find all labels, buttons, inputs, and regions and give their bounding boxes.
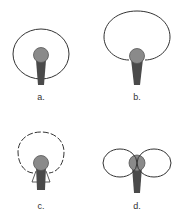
panel-label-c: c. xyxy=(37,201,44,211)
mic-head-icon xyxy=(34,48,49,63)
panel-b-cardioid: b. xyxy=(104,11,170,102)
panel-a-omnidirectional: a. xyxy=(13,29,69,102)
mic-head-icon xyxy=(130,49,145,64)
polar-patterns-diagram: a. b. c. d. xyxy=(0,0,183,216)
mic-handle-icon xyxy=(36,60,46,85)
panel-c-hypercardioid: c. xyxy=(18,132,64,211)
panel-label-a: a. xyxy=(37,92,45,102)
panel-label-b: b. xyxy=(133,92,141,102)
mic-head-icon xyxy=(34,156,49,171)
panel-d-figure-eight: d. xyxy=(103,149,171,211)
panel-label-d: d. xyxy=(133,201,141,211)
